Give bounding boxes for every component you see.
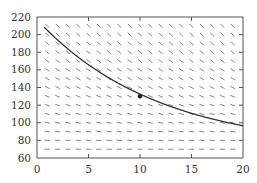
slope-segment bbox=[189, 122, 194, 123]
slope-segment bbox=[86, 60, 90, 63]
slope-segment bbox=[138, 86, 143, 88]
slope-segment bbox=[107, 95, 112, 97]
slope-segment bbox=[107, 86, 112, 88]
slope-segment bbox=[210, 24, 214, 28]
slope-segment bbox=[45, 86, 50, 88]
slope-segment bbox=[220, 104, 225, 106]
slope-segment bbox=[148, 68, 152, 71]
y-tick-label: 160 bbox=[11, 63, 31, 75]
slope-segment bbox=[179, 131, 184, 132]
slope-segment bbox=[55, 131, 60, 132]
y-tick-label: 220 bbox=[11, 11, 31, 23]
slope-segment bbox=[169, 77, 173, 80]
slope-segment bbox=[117, 68, 121, 71]
slope-segment bbox=[66, 60, 70, 63]
slope-segment bbox=[158, 86, 163, 88]
slope-segment bbox=[179, 51, 183, 54]
slope-segment bbox=[200, 42, 204, 45]
slope-segment bbox=[169, 60, 173, 63]
slope-segment bbox=[138, 60, 142, 63]
slope-segment bbox=[96, 86, 101, 88]
slope-segment bbox=[138, 24, 142, 28]
slope-segment bbox=[189, 60, 193, 63]
slope-segment bbox=[45, 122, 50, 123]
slope-segment bbox=[137, 131, 142, 132]
slope-segment bbox=[231, 24, 235, 28]
slope-segment bbox=[76, 95, 81, 97]
slope-segment bbox=[231, 51, 235, 54]
slope-segment bbox=[45, 77, 49, 80]
slope-segment bbox=[189, 77, 193, 80]
slope-segment bbox=[158, 131, 163, 132]
slope-segment bbox=[86, 86, 91, 88]
slope-segment bbox=[87, 42, 91, 45]
slope-segment bbox=[117, 86, 122, 88]
slope-segment bbox=[179, 122, 184, 123]
slope-segment bbox=[220, 68, 224, 71]
slope-segment bbox=[66, 24, 70, 28]
slope-segment bbox=[220, 113, 225, 114]
slope-segment bbox=[169, 33, 173, 37]
slope-segment bbox=[96, 104, 101, 106]
slope-segment bbox=[117, 122, 122, 123]
slope-segment bbox=[86, 131, 91, 132]
slope-segment bbox=[210, 60, 214, 63]
slope-segment bbox=[169, 51, 173, 54]
slope-segment bbox=[76, 86, 81, 88]
slope-segment bbox=[148, 113, 153, 114]
slope-segment bbox=[107, 24, 111, 28]
y-tick-label: 180 bbox=[11, 46, 31, 58]
slope-segment bbox=[158, 77, 162, 80]
slope-segment bbox=[148, 42, 152, 45]
slope-segment bbox=[148, 77, 152, 80]
slope-segment bbox=[189, 104, 194, 106]
slope-segment bbox=[128, 42, 132, 45]
slope-segment bbox=[199, 131, 204, 132]
slope-segment bbox=[118, 24, 122, 28]
slope-segment bbox=[107, 68, 111, 71]
slope-segment bbox=[76, 33, 80, 37]
slope-segment bbox=[45, 42, 49, 45]
y-tick-label: 80 bbox=[18, 134, 31, 146]
slope-segment bbox=[230, 95, 235, 97]
slope-segment bbox=[179, 86, 184, 88]
slope-segment bbox=[148, 51, 152, 54]
slope-segment bbox=[159, 24, 163, 28]
slope-segment bbox=[138, 51, 142, 54]
slope-segment bbox=[76, 68, 80, 71]
slope-segment bbox=[189, 86, 194, 88]
slope-segment bbox=[117, 113, 122, 114]
slope-segment bbox=[45, 104, 50, 106]
slope-segment bbox=[107, 104, 112, 106]
slope-segment bbox=[107, 60, 111, 63]
slope-segment bbox=[231, 60, 235, 63]
slope-segment bbox=[169, 95, 174, 97]
slope-segment bbox=[107, 122, 112, 123]
slope-segment bbox=[179, 95, 184, 97]
slope-segment bbox=[87, 24, 91, 28]
slope-segment bbox=[65, 113, 70, 114]
slope-segment bbox=[107, 51, 111, 54]
slope-segment bbox=[86, 104, 91, 106]
slope-segment bbox=[189, 51, 193, 54]
slope-segment bbox=[230, 77, 234, 80]
slope-segment bbox=[76, 131, 81, 132]
slope-segment bbox=[137, 122, 142, 123]
slope-segment bbox=[221, 24, 225, 28]
slope-segment bbox=[66, 77, 70, 80]
slope-segment bbox=[148, 33, 152, 37]
slope-segment bbox=[66, 33, 70, 37]
slope-segment bbox=[220, 86, 225, 88]
slope-segment bbox=[179, 68, 183, 71]
slope-segment bbox=[158, 122, 163, 123]
slope-segment bbox=[117, 60, 121, 63]
slope-segment bbox=[158, 68, 162, 71]
slope-segment bbox=[45, 95, 50, 97]
slope-segment bbox=[148, 95, 153, 97]
slope-segment bbox=[76, 51, 80, 54]
slope-segment bbox=[127, 104, 132, 106]
slope-segment bbox=[127, 77, 131, 80]
slope-segment bbox=[231, 42, 235, 45]
slope-segment bbox=[117, 51, 121, 54]
slope-segment bbox=[76, 113, 81, 114]
